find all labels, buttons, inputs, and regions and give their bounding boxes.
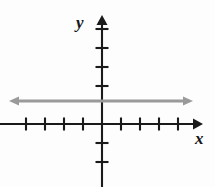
x-axis-arrowhead	[193, 119, 203, 130]
plotted-line-right-arrowhead	[183, 97, 193, 106]
graph-canvas	[0, 0, 215, 187]
y-axis-arrowhead	[97, 15, 108, 25]
y-axis-label: y	[76, 14, 84, 31]
plotted-line-left-arrowhead	[9, 97, 19, 106]
x-axis-label: x	[195, 130, 204, 147]
coordinate-plane-graph: y x	[0, 0, 215, 187]
